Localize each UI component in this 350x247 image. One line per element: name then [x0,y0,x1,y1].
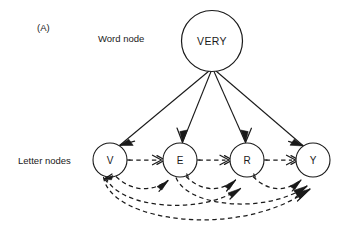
letter-node-y[interactable]: Y [296,143,330,177]
link-very-to-y [216,71,304,146]
link-very-to-r [214,72,251,143]
word-node-very[interactable]: VERY [182,11,243,72]
letter-node-label: Y [310,155,317,166]
letter-node-v[interactable]: V [93,143,127,177]
lateral-straight-link-group [129,155,300,165]
figure-root: (A) Word node Letter nodes [0,0,350,247]
node-diagram: (A) Word node Letter nodes [0,0,350,247]
link-r-to-y-curve [253,177,301,192]
letter-node-label: E [177,155,184,166]
link-e-to-y-curve [176,178,307,205]
link-v-to-e-curve [116,177,168,192]
link-very-to-e [177,72,211,143]
letter-node-r[interactable]: R [230,143,264,177]
top-down-link-group [120,71,304,146]
link-e-to-r-curve [186,177,236,192]
link-r-to-y [266,155,300,165]
link-very-to-v [120,71,210,146]
word-node-label: VERY [197,35,227,47]
letter-row-label: Letter nodes [18,155,71,166]
link-e-to-r [199,155,233,165]
word-row-label: Word node [98,33,144,44]
panel-label: (A) [37,22,50,33]
link-v-to-r-curve [106,178,241,206]
link-v-to-e [129,155,166,165]
letter-node-label: V [107,155,114,166]
lateral-curved-link-group [104,177,311,220]
letter-node-label: R [243,155,250,166]
letter-node-e[interactable]: E [163,143,197,177]
